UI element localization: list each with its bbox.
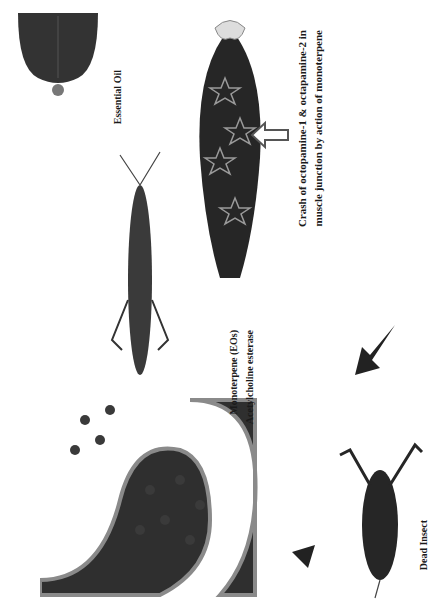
synapse-icon — [40, 380, 260, 600]
acetylcholine-label: Acetylcholine esterase — [244, 330, 256, 424]
essential-oil-label: Essential Oil — [112, 70, 124, 124]
dead-insect-stage — [330, 430, 430, 600]
droplet-icon — [52, 84, 64, 96]
leg-muscle-stage — [170, 8, 290, 298]
arrow-dead-to-leg — [350, 320, 400, 380]
leg-caption-line2: muscle junction by action of monoterpene — [312, 30, 325, 226]
cycle-arrow-icon — [350, 320, 400, 380]
essential-oil-stage — [8, 8, 108, 118]
mechanism-diagram: Essential Oil Crash of octopamine-1 & oc… — [0, 0, 441, 614]
grasshopper-icon — [110, 150, 170, 390]
monoterpene-label: Monoterpene (EOs) — [228, 330, 240, 415]
leaf-icon — [8, 8, 108, 118]
block-arrow-icon — [250, 120, 290, 150]
leg-caption-line1: Crash of octopamine-1 & octapamine-2 in — [296, 30, 309, 227]
leg-muscle-icon — [170, 8, 290, 298]
arrow-synapse-to-dead — [270, 540, 320, 590]
dead-grasshopper-icon — [330, 430, 430, 600]
caption-pointer-arrow — [250, 120, 290, 150]
live-insect — [110, 150, 170, 390]
dead-insect-label: Dead Insect — [418, 520, 430, 570]
cycle-arrow-icon — [270, 540, 320, 590]
synapse-stage — [40, 380, 260, 600]
